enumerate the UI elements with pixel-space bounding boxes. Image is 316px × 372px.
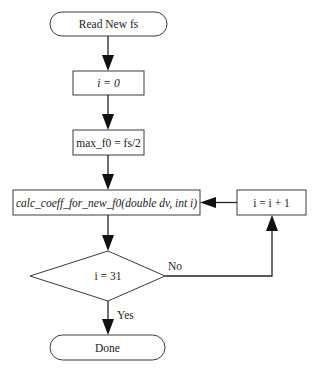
increment-node: i = i + 1 (237, 190, 306, 215)
init-i-node: i = 0 (73, 71, 144, 95)
max-f0-label: max_f0 = fs/2 (76, 137, 141, 149)
edge-init-to-maxf0 (102, 95, 114, 130)
flowchart-canvas: Read New fs i = 0 max_f0 = fs/2 calc_coe… (0, 0, 316, 372)
edge-calc-to-decision (102, 215, 114, 251)
increment-label: i = i + 1 (253, 197, 290, 209)
start-node: Read New fs (50, 12, 167, 36)
arrowhead-icon (102, 55, 114, 71)
arrowhead-icon (102, 114, 114, 130)
arrowhead-icon (200, 197, 216, 208)
arrowhead-icon (102, 174, 114, 190)
decision-label: i = 31 (95, 270, 122, 282)
max-f0-node: max_f0 = fs/2 (73, 130, 144, 155)
edge-maxf0-to-calc (102, 155, 114, 190)
calc-coeff-node: calc_coeff_for_new_f0(double dv, int i) (13, 190, 200, 215)
arrowhead-icon (102, 235, 114, 251)
init-i-label: i = 0 (97, 77, 120, 89)
end-label: Done (95, 342, 120, 354)
edge-increment-to-calc (200, 197, 237, 208)
arrowhead-icon (266, 215, 278, 231)
arrowhead-icon (102, 319, 114, 335)
end-node: Done (50, 335, 165, 360)
decision-node: i = 31 (30, 251, 165, 301)
calc-coeff-label: calc_coeff_for_new_f0(double dv, int i) (16, 197, 197, 210)
edge-decision-no: No (165, 215, 278, 276)
edge-decision-yes: Yes (102, 301, 134, 335)
no-branch-label: No (168, 260, 182, 272)
start-label: Read New fs (79, 18, 139, 30)
yes-branch-label: Yes (117, 309, 134, 321)
edge-start-to-init (102, 36, 114, 71)
